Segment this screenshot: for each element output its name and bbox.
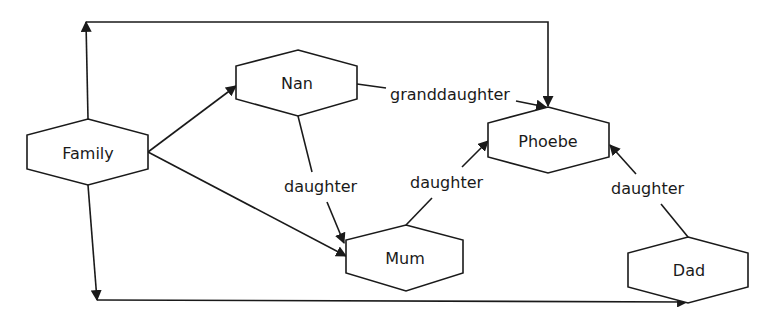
- node-label-family: Family: [62, 144, 113, 163]
- edge-label-mum-phoebe-daughter: daughter: [410, 173, 484, 192]
- node-label-nan: Nan: [281, 74, 313, 93]
- family-relationship-diagram: granddaughter daughter daughter daughter…: [0, 0, 772, 328]
- node-label-phoebe: Phoebe: [518, 132, 577, 151]
- node-nan: Nan: [236, 50, 357, 116]
- node-dad: Dad: [628, 237, 748, 303]
- edge-label-nan-mum-daughter: daughter: [284, 177, 358, 196]
- node-family: Family: [27, 119, 148, 185]
- edge-family-nan: [148, 86, 236, 152]
- edge-nan-mum: [298, 116, 312, 172]
- edge-mum-phoebe-2: [462, 141, 488, 167]
- edge-dad-phoebe-2: [610, 145, 636, 174]
- edge-dad-phoebe: [661, 204, 688, 237]
- edge-nan-mum-2: [327, 202, 344, 243]
- node-mum: Mum: [346, 225, 463, 291]
- edge-nan-phoebe-2: [516, 101, 546, 107]
- node-label-mum: Mum: [385, 249, 425, 268]
- edge-nan-phoebe: [357, 84, 386, 88]
- node-phoebe: Phoebe: [488, 107, 609, 173]
- node-label-dad: Dad: [673, 261, 705, 280]
- edge-label-dad-phoebe-daughter: daughter: [611, 179, 685, 198]
- edge-family-phoebe-top-loop: [86, 22, 88, 119]
- edge-bottom-line: [97, 300, 687, 302]
- edge-label-granddaughter: granddaughter: [390, 85, 510, 104]
- edge-mum-phoebe: [406, 198, 432, 225]
- edge-family-dad-bottom-loop: [88, 185, 97, 300]
- edge-family-mum: [148, 152, 346, 256]
